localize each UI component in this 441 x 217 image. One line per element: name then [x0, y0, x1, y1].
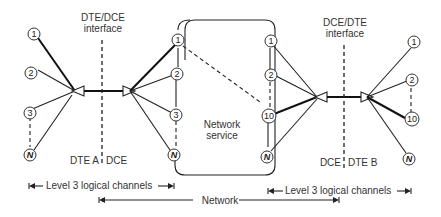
dte-b-label: DTE B — [348, 157, 378, 168]
svg-text:1: 1 — [411, 37, 416, 47]
dce-left-links — [130, 43, 260, 153]
dte-a-channel-n: N — [24, 149, 36, 161]
dte-b-links — [367, 48, 411, 153]
left-interface-label-1: DTE/DCE — [81, 12, 125, 23]
svg-text:Level 3 logical channels: Level 3 logical channels — [285, 185, 391, 196]
svg-text:2: 2 — [409, 75, 414, 85]
right-channels-span: Level 3 logical channels — [268, 185, 411, 196]
right-interface-label-2: interface — [326, 28, 365, 39]
left-interface-label-2: interface — [84, 23, 123, 34]
network-span: Network — [99, 195, 339, 206]
left-channels-span: Level 3 logical channels — [29, 180, 174, 191]
svg-text:1: 1 — [175, 35, 180, 45]
network-service-label-1: Network — [204, 119, 242, 130]
dce-left-channel-2: 2 — [171, 68, 183, 80]
dce-right-label: DCE — [320, 157, 341, 168]
svg-text:10: 10 — [407, 114, 417, 124]
svg-text:Network: Network — [202, 195, 240, 206]
dce-right-channel-2: 2 — [265, 69, 277, 81]
svg-text:N: N — [171, 150, 178, 160]
svg-text:N: N — [27, 150, 34, 160]
mux-dce-right-icon — [315, 92, 327, 102]
dce-left-label: DCE — [106, 155, 127, 166]
right-interface-label-1: DCE/DTE — [323, 17, 367, 28]
dte-b-channel-10: 10 — [405, 112, 419, 126]
mux-dte-a-icon — [72, 86, 84, 96]
dte-a-label: DTE A — [70, 155, 99, 166]
dce-right-channel-10: 10 — [262, 109, 276, 123]
dte-a-channel-1: 1 — [28, 28, 40, 40]
dce-right-channel-1: 1 — [265, 35, 277, 47]
network-boundary — [175, 20, 275, 175]
svg-text:2: 2 — [268, 70, 273, 80]
dte-a-channel-3: 3 — [24, 107, 36, 119]
dce-right-channel-n: N — [261, 151, 273, 163]
svg-text:3: 3 — [173, 110, 178, 120]
svg-text:1: 1 — [268, 36, 273, 46]
dte-a-links — [30, 38, 75, 150]
svg-text:N: N — [406, 154, 413, 164]
dte-a-channel-2: 2 — [25, 67, 37, 79]
dce-left-channel-n: N — [168, 149, 180, 161]
svg-text:3: 3 — [27, 108, 32, 118]
svg-text:10: 10 — [264, 111, 274, 121]
svg-text:2: 2 — [28, 68, 33, 78]
dte-b-channel-1: 1 — [408, 36, 420, 48]
dce-left-channel-3: 3 — [170, 109, 182, 121]
x25-network-diagram: 1 2 3 N 1 2 3 N 1 2 10 N 1 2 10 N DTE/DC… — [0, 0, 441, 217]
network-service-label-2: service — [206, 130, 238, 141]
svg-text:1: 1 — [31, 29, 36, 39]
dte-b-channel-2: 2 — [406, 74, 418, 86]
dce-left-channel-1: 1 — [172, 34, 184, 46]
dte-b-channel-n: N — [403, 153, 415, 165]
svg-text:2: 2 — [174, 69, 179, 79]
svg-text:N: N — [264, 152, 271, 162]
svg-text:Level 3 logical channels: Level 3 logical channels — [46, 180, 152, 191]
